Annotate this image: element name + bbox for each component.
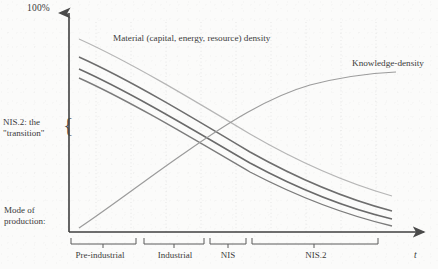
series-material-2 [79,57,392,211]
series-material-upper [79,39,392,196]
x-category-nis: NIS [208,250,248,260]
series-material-4 [79,78,392,226]
x-category-pre-industrial: Pre-industrial [62,250,138,260]
annotation-material-density: Material (capital, energy, resource) den… [113,33,270,44]
annotation-knowledge-density: Knowledge-density [352,58,424,69]
series-knowledge-density [79,72,396,228]
transition-label: NIS.2: the "transition" [3,117,44,138]
x-axis-variable-label: t [414,250,417,260]
x-category-industrial: Industrial [144,250,206,260]
mode-of-production-label: Mode of production: [4,205,46,228]
curly-brace-icon: { [63,112,74,138]
x-axis-brackets [71,238,378,248]
x-category-nis-2: NIS.2 [252,250,380,260]
y-axis-top-label: 100% [27,3,50,14]
gridlines [96,22,376,232]
chart-figure: 100% NIS.2: the "transition" { Mode of p… [0,0,438,269]
